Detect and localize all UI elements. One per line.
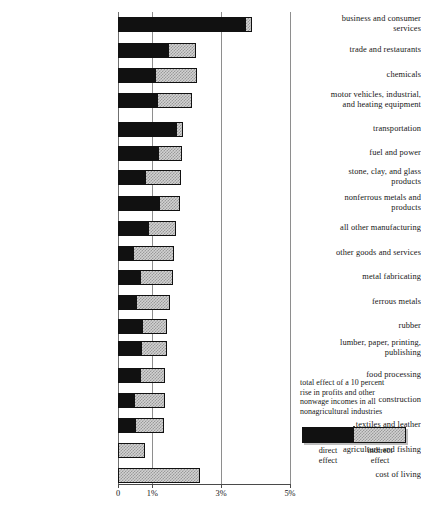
bar-segment-indirect <box>160 197 180 210</box>
legend-key-indirect: indirect effect <box>354 446 406 465</box>
legend-swatch-direct <box>303 428 354 442</box>
category-label-line: all other manufacturing <box>340 223 421 232</box>
bar-segment-direct <box>119 247 134 260</box>
legend-key-indirect-line2: effect <box>371 456 389 465</box>
category-label: fuel and power <box>309 148 421 158</box>
category-label-line: publishing <box>309 348 421 358</box>
stacked-bar <box>118 393 165 408</box>
stacked-bar <box>118 418 164 433</box>
stacked-bar <box>118 319 167 334</box>
gridline-5 <box>290 12 291 484</box>
legend-caption-line-2: rise in profits and other <box>300 388 415 398</box>
bar-segment-indirect <box>146 171 181 184</box>
category-label: all other manufacturing <box>309 223 421 233</box>
bar-segment-direct <box>119 18 246 31</box>
stacked-bar <box>118 43 196 58</box>
stacked-bar <box>118 270 173 285</box>
stacked-bar <box>118 170 181 185</box>
legend-key-direct-line1: direct <box>319 446 338 455</box>
stacked-bar <box>118 443 145 458</box>
x-axis: 01%3%5% <box>118 484 294 506</box>
x-axis-tick-label: 0 <box>116 489 120 498</box>
bar-segment-indirect <box>159 147 182 160</box>
x-axis-tick <box>118 484 119 488</box>
category-label: nonferrous metals andproducts <box>309 193 421 212</box>
category-label-line: products <box>309 203 421 213</box>
category-label-line: other goods and services <box>336 248 421 257</box>
bar-segment-direct <box>119 222 149 235</box>
bar-segment-indirect <box>142 342 166 355</box>
bar-segment-indirect <box>158 94 192 107</box>
category-label-line: nonferrous metals and <box>344 193 421 202</box>
category-label-line: chemicals <box>387 70 421 79</box>
bar-segment-direct <box>119 271 141 284</box>
x-axis-tick-label: 1% <box>147 489 158 498</box>
category-label: ferrous metals <box>309 297 421 307</box>
bar-segment-direct <box>119 171 146 184</box>
x-axis-tick <box>290 484 291 488</box>
bar-segment-direct <box>119 69 156 82</box>
legend-caption-line-3: nonwage incomes in all <box>300 397 415 407</box>
x-axis-tick-label: 5% <box>284 489 295 498</box>
stacked-bar <box>118 341 167 356</box>
gridline-3 <box>221 12 222 484</box>
category-label-line: business and consumer <box>342 14 421 23</box>
legend-swatch-indirect <box>354 428 405 442</box>
bar-segment-indirect <box>246 18 252 31</box>
category-label: stone, clay, and glassproducts <box>309 167 421 186</box>
bar-segment-direct <box>119 197 160 210</box>
bar-segment-direct <box>119 44 169 57</box>
bar-segment-indirect <box>149 222 176 235</box>
stacked-bar <box>118 146 182 161</box>
category-label: lumber, paper, printing,publishing <box>309 338 421 357</box>
category-label-line: and heating equipment <box>309 100 421 110</box>
bar-segment-indirect <box>141 369 165 382</box>
bar-segment-indirect <box>134 247 174 260</box>
plot-area <box>118 12 290 484</box>
category-label-line: rubber <box>399 321 421 330</box>
stacked-bar <box>118 295 170 310</box>
legend-brace-icon <box>302 420 406 427</box>
stacked-bar <box>118 221 176 236</box>
category-label-line: transportation <box>373 124 421 133</box>
category-label: other goods and services <box>309 248 421 258</box>
category-label: metal fabricating <box>309 272 421 282</box>
x-axis-tick-label: 3% <box>216 489 227 498</box>
bar-segment-direct <box>119 419 136 432</box>
category-label: business and consumerservices <box>309 14 421 33</box>
legend-key-indirect-line1: indirect <box>367 446 392 455</box>
category-label-line: fuel and power <box>369 148 421 157</box>
x-axis-baseline <box>118 484 290 485</box>
stacked-bar <box>118 246 174 261</box>
bar-segment-direct <box>119 342 142 355</box>
stacked-bar <box>118 468 200 483</box>
bar-segment-direct <box>119 296 137 309</box>
x-axis-tick <box>152 484 153 488</box>
x-axis-tick <box>221 484 222 488</box>
category-label: rubber <box>309 321 421 331</box>
stacked-bar <box>118 196 180 211</box>
stacked-bar <box>118 122 183 137</box>
legend-key-labels: direct effect indirect effect <box>302 446 406 465</box>
legend-caption-line-4: nonagricultural industries <box>300 407 415 417</box>
stacked-bar <box>118 68 197 83</box>
bar-segment-indirect <box>136 419 164 432</box>
bar-segment-indirect <box>137 296 170 309</box>
category-label-line: cost of living <box>375 470 421 479</box>
legend-caption: total effect of a 10 percent rise in pro… <box>300 378 415 416</box>
legend-swatch <box>302 427 406 443</box>
legend: total effect of a 10 percent rise in pro… <box>300 378 415 466</box>
category-label: motor vehicles, industrial,and heating e… <box>309 90 421 109</box>
legend-key-direct-line2: effect <box>319 456 337 465</box>
category-label-line: lumber, paper, printing, <box>340 338 421 347</box>
category-label-line: motor vehicles, industrial, <box>331 90 421 99</box>
stacked-bar <box>118 17 252 32</box>
category-label-line: stone, clay, and glass <box>348 167 421 176</box>
bar-segment-direct <box>119 394 135 407</box>
bar-segment-direct <box>119 147 159 160</box>
category-label-line: ferrous metals <box>372 297 421 306</box>
stacked-bar <box>118 93 192 108</box>
category-label: transportation <box>309 124 421 134</box>
legend-caption-line-1: total effect of a 10 percent <box>300 378 415 388</box>
bar-segment-indirect <box>177 123 183 136</box>
